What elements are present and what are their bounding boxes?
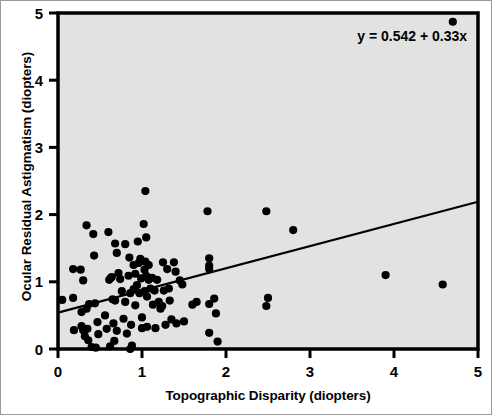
data-point (142, 233, 150, 241)
data-point (123, 329, 131, 337)
data-point (90, 251, 98, 259)
x-tick-label: 4 (390, 363, 399, 380)
data-point (264, 294, 272, 302)
data-point (143, 292, 151, 300)
data-point (103, 325, 111, 333)
y-tick-label: 3 (35, 139, 43, 156)
data-point (134, 237, 142, 245)
data-point (205, 254, 213, 262)
data-point (289, 226, 297, 234)
equation-annotation: y = 0.542 + 0.33x (357, 28, 467, 44)
data-point (138, 313, 146, 321)
data-point (82, 221, 90, 229)
data-point (79, 276, 87, 284)
data-point (203, 207, 211, 215)
y-tick-label: 4 (35, 72, 44, 89)
x-tick-label: 5 (474, 363, 482, 380)
data-point (127, 321, 135, 329)
data-point (92, 344, 100, 352)
data-point (116, 275, 124, 283)
data-point (104, 228, 112, 236)
y-tick-label: 1 (35, 273, 43, 290)
data-point (69, 265, 77, 273)
data-point (165, 284, 173, 292)
y-axis-tick-labels: 012345 (35, 5, 44, 358)
data-point (110, 337, 118, 345)
data-point (141, 187, 149, 195)
data-point (163, 265, 171, 273)
y-tick-label: 5 (35, 5, 43, 22)
data-point (212, 309, 220, 317)
data-point (111, 239, 119, 247)
x-axis-tick-labels: 012345 (54, 363, 482, 380)
y-tick-label: 2 (35, 206, 43, 223)
data-point (119, 315, 127, 323)
data-point (101, 311, 109, 319)
data-point (94, 330, 102, 338)
data-point (214, 338, 222, 346)
data-point (193, 298, 201, 306)
data-point (382, 271, 390, 279)
data-point (449, 18, 457, 26)
data-point (113, 327, 121, 335)
data-point (205, 329, 213, 337)
data-point (143, 323, 151, 331)
data-point (170, 258, 178, 266)
data-point (172, 268, 180, 276)
data-point (125, 254, 133, 262)
data-point (262, 207, 270, 215)
data-point (153, 276, 161, 284)
data-point (121, 298, 129, 306)
scatter-plot-svg: 012345 012345 y = 0.542 + 0.33x (1, 1, 492, 415)
x-tick-label: 3 (306, 363, 314, 380)
data-point (70, 326, 78, 334)
data-point (121, 240, 129, 248)
data-point (93, 318, 101, 326)
data-point (69, 294, 77, 302)
x-tick-label: 1 (138, 363, 146, 380)
data-point (158, 302, 166, 310)
y-tick-label: 0 (35, 341, 43, 358)
data-point (83, 325, 91, 333)
data-point (151, 324, 159, 332)
data-point (210, 295, 218, 303)
data-point (113, 249, 121, 257)
x-tick-label: 2 (222, 363, 230, 380)
data-point (145, 261, 153, 269)
figure-container: Ocular Residual Astigmatism (diopters) T… (0, 0, 492, 415)
data-point (166, 297, 174, 305)
data-point (172, 319, 180, 327)
data-point (262, 302, 270, 310)
data-point (439, 280, 447, 288)
data-point (89, 230, 97, 238)
x-tick-label: 0 (54, 363, 62, 380)
data-point (180, 317, 188, 325)
data-point (128, 342, 136, 350)
data-point (140, 220, 148, 228)
data-point (58, 296, 66, 304)
data-point (77, 266, 85, 274)
data-point (109, 319, 117, 327)
data-point (131, 301, 139, 309)
